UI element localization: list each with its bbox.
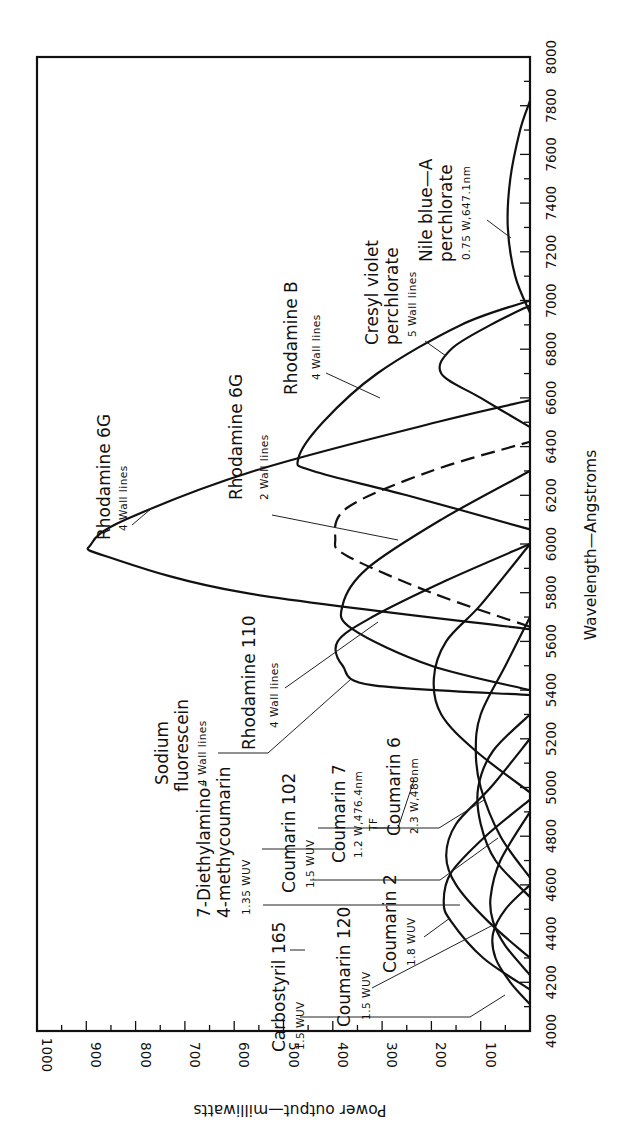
x-tick-label: 7000 [543, 283, 559, 317]
svg-text:Rhodamine 6G: Rhodamine 6G [94, 414, 114, 540]
svg-text:Coumarin 120: Coumarin 120 [334, 907, 354, 1027]
label-coumarin-7: Coumarin 7 1.2 W,476.4nm TF [329, 764, 379, 863]
x-tick-label: 5200 [543, 722, 559, 756]
x-tick-label: 4000 [543, 1014, 559, 1048]
x-tick-label: 4400 [543, 916, 559, 950]
label-coumarin-6: Coumarin 6 2.3 W,488nm [384, 737, 420, 836]
curve-coumarin-6-2-3-w-488nm [434, 544, 530, 792]
label-sodium-fluorescein: Sodium fluorescein 4 Wall lines [152, 699, 208, 792]
x-tick-label: 5600 [543, 624, 559, 658]
x-tick-label: 7600 [543, 137, 559, 171]
svg-text:perchlorate: perchlorate [436, 164, 456, 262]
svg-text:1.5 WUV: 1.5 WUV [360, 971, 372, 1020]
svg-text:0.75 W,647.1nm: 0.75 W,647.1nm [460, 166, 472, 260]
y-tick-label: 900 [88, 1042, 104, 1068]
y-tick-label: 300 [384, 1042, 400, 1068]
label-cresyl-violet: Cresyl violet perchlorate 5 Wall lines [362, 240, 418, 345]
curve-nile-blue-a-perchlorate-0-75-w-647-1nm [508, 101, 530, 313]
svg-text:TF: TF [367, 818, 379, 832]
dye-laser-tuning-chart: 4000420044004600480050005200540056005800… [0, 0, 617, 1133]
svg-text:Coumarin 7: Coumarin 7 [329, 764, 349, 863]
svg-text:4 Wall lines: 4 Wall lines [310, 314, 322, 380]
label-coumarin-2: Coumarin 2 1.8 WUV [380, 874, 417, 973]
label-carbostyril-165: Carbostyril 165 1.5 WUV [269, 922, 306, 1052]
x-tick-label: 6000 [543, 527, 559, 561]
label-coumarin-102: Coumarin 102 1.5 WUV [279, 773, 316, 893]
label-rhodamine-6g-2w: Rhodamine 6G 2 Wall lines [226, 374, 270, 500]
svg-text:Sodium: Sodium [152, 721, 172, 785]
y-tick-label: 100 [483, 1042, 499, 1068]
svg-text:Coumarin 2: Coumarin 2 [380, 874, 400, 973]
label-rhodamine-110: Rhodamine 110 4 Wall lines [239, 615, 280, 750]
svg-text:4 Wall lines: 4 Wall lines [268, 662, 280, 728]
x-tick-label: 6400 [543, 429, 559, 463]
x-tick-label: 7200 [543, 235, 559, 269]
svg-text:4-methycoumarin: 4-methycoumarin [214, 767, 234, 918]
svg-text:4 Wall lines: 4 Wall lines [196, 720, 208, 786]
x-tick-label: 6600 [543, 381, 559, 415]
x-tick-label: 5400 [543, 673, 559, 707]
svg-text:5 Wall lines: 5 Wall lines [406, 271, 418, 337]
x-tick-label: 4600 [543, 868, 559, 902]
x-axis-title: Wavelength—Angstroms [582, 450, 600, 641]
svg-text:Coumarin 6: Coumarin 6 [384, 737, 404, 836]
svg-text:1.8 WUV: 1.8 WUV [405, 917, 417, 966]
svg-text:Cresyl violet: Cresyl violet [362, 240, 382, 345]
curve-rhodamine-6g-2-wall-lines [335, 442, 530, 627]
label-coumarin-120: Coumarin 120 1.5 WUV [334, 907, 372, 1027]
x-tick-label: 6800 [543, 332, 559, 366]
label-nile-blue: Nile blue—A perchlorate 0.75 W,647.1nm [416, 158, 472, 262]
curve-rhodamine-6g-4-wall-lines [88, 400, 530, 629]
svg-text:7-Diethylamino-: 7-Diethylamino- [194, 781, 214, 918]
x-tick-label: 4800 [543, 819, 559, 853]
svg-text:fluorescein: fluorescein [172, 699, 192, 792]
svg-text:1.2 W,476.4nm: 1.2 W,476.4nm [352, 771, 364, 858]
curve-cresyl-violet-perchlorate-5-wall-lines [440, 305, 530, 427]
y-axis-title: Power output—milliwatts [193, 1101, 386, 1119]
svg-text:Rhodamine 110: Rhodamine 110 [239, 615, 259, 750]
y-tick-label: 200 [433, 1042, 449, 1068]
svg-text:Rhodamine B: Rhodamine B [281, 281, 301, 395]
svg-text:Rhodamine 6G: Rhodamine 6G [226, 374, 246, 500]
y-tick-label: 400 [335, 1042, 351, 1068]
x-tick-label: 6200 [543, 478, 559, 512]
y-tick-label: 800 [138, 1042, 154, 1068]
svg-text:perchlorate: perchlorate [382, 247, 402, 345]
svg-text:4 Wall lines: 4 Wall lines [117, 465, 129, 531]
svg-text:Carbostyril 165: Carbostyril 165 [269, 922, 289, 1052]
label-rhodamine-b: Rhodamine B 4 Wall lines [281, 281, 322, 395]
svg-text:Nile blue—A: Nile blue—A [416, 158, 436, 262]
svg-text:Coumarin 102: Coumarin 102 [279, 773, 299, 893]
x-tick-label: 4200 [543, 965, 559, 999]
axis-tick-labels: 4000420044004600480050005200540056005800… [39, 40, 559, 1072]
x-tick-label: 7400 [543, 186, 559, 220]
x-tick-label: 7800 [543, 89, 559, 123]
svg-text:1.5 WUV: 1.5 WUV [304, 839, 316, 888]
svg-text:1.35 WUV: 1.35 WUV [240, 859, 252, 915]
label-7-diethylamino-4-methycoumarin: 7-Diethylamino- 4-methycoumarin 1.35 WUV [194, 767, 252, 918]
y-tick-label: 600 [236, 1042, 252, 1068]
x-tick-label: 5800 [543, 576, 559, 610]
label-rhodamine-6g-4w: Rhodamine 6G 4 Wall lines [94, 414, 129, 540]
svg-text:1.5 WUV: 1.5 WUV [294, 1001, 306, 1050]
x-tick-label: 8000 [543, 40, 559, 74]
x-tick-label: 5000 [543, 770, 559, 804]
y-tick-label: 700 [187, 1042, 203, 1068]
svg-text:2 Wall lines: 2 Wall lines [258, 434, 270, 500]
svg-text:2.3 W,488nm: 2.3 W,488nm [408, 758, 420, 834]
y-tick-label: 1000 [39, 1038, 55, 1072]
